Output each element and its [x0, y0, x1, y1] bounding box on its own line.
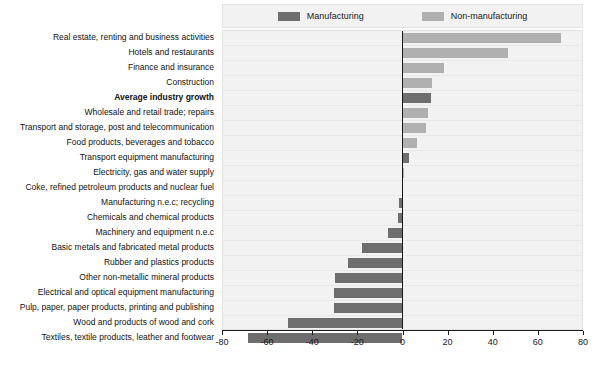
category-label: Electricity, gas and water supply: [0, 165, 218, 180]
plot-area: [222, 30, 583, 330]
x-axis-tick: [267, 331, 268, 335]
bar[interactable]: [335, 273, 402, 283]
category-label: Chemicals and chemical products: [0, 210, 218, 225]
x-axis-tick-label: -80: [215, 337, 228, 347]
bar[interactable]: [403, 33, 562, 43]
category-label: Hotels and restaurants: [0, 45, 218, 60]
bar[interactable]: [403, 48, 508, 58]
legend-label-non-manufacturing: Non-manufacturing: [451, 12, 528, 21]
chart-legend: Manufacturing Non-manufacturing: [222, 4, 583, 28]
legend-swatch-manufacturing: [278, 12, 300, 21]
category-axis-labels: Real estate, renting and business activi…: [0, 30, 218, 330]
bar[interactable]: [403, 78, 432, 88]
bar[interactable]: [348, 258, 403, 268]
x-axis-tick: [583, 331, 584, 335]
x-axis-tick: [312, 331, 313, 335]
category-label: Pulp, paper, paper products, printing an…: [0, 300, 218, 315]
bar[interactable]: [403, 63, 445, 73]
x-axis-tick-label: -20: [351, 337, 364, 347]
category-label: Machinery and equipment n.e.c: [0, 225, 218, 240]
category-label: Finance and insurance: [0, 60, 218, 75]
legend-label-manufacturing: Manufacturing: [307, 12, 364, 21]
category-label: Transport and storage, post and telecomm…: [0, 120, 218, 135]
bar-chart: Manufacturing Non-manufacturing Real est…: [0, 0, 600, 370]
x-axis-tick-labels: -80-60-40-20020406080: [222, 337, 583, 351]
x-axis-tick-label: 60: [533, 337, 543, 347]
bar[interactable]: [288, 318, 402, 328]
x-axis-tick-label: -40: [306, 337, 319, 347]
category-label: Electrical and optical equipment manufac…: [0, 285, 218, 300]
category-label: Food products, beverages and tobacco: [0, 135, 218, 150]
category-label: Transport equipment manufacturing: [0, 150, 218, 165]
category-label: Average industry growth: [0, 90, 218, 105]
category-label: Textiles, textile products, leather and …: [0, 330, 218, 345]
bar[interactable]: [403, 108, 429, 118]
bar[interactable]: [334, 288, 402, 298]
legend-item-manufacturing[interactable]: Manufacturing: [278, 12, 364, 21]
bar[interactable]: [403, 93, 431, 103]
legend-swatch-non-manufacturing: [422, 12, 444, 21]
x-axis-tick-label: -60: [261, 337, 274, 347]
x-axis-tick: [448, 331, 449, 335]
category-label: Wood and products of wood and cork: [0, 315, 218, 330]
category-label: Real estate, renting and business activi…: [0, 30, 218, 45]
category-label: Wholesale and retail trade; repairs: [0, 105, 218, 120]
zero-axis-line: [402, 31, 404, 329]
category-label: Basic metals and fabricated metal produc…: [0, 240, 218, 255]
category-label: Construction: [0, 75, 218, 90]
x-axis-tick: [403, 331, 404, 335]
x-axis-tick: [222, 331, 223, 335]
bar[interactable]: [388, 228, 403, 238]
bar[interactable]: [403, 138, 418, 148]
x-axis-tick-label: 80: [578, 337, 588, 347]
category-label: Rubber and plastics products: [0, 255, 218, 270]
x-axis-tick-label: 0: [400, 337, 405, 347]
bar[interactable]: [362, 243, 402, 253]
x-axis-tick-label: 40: [488, 337, 498, 347]
bar[interactable]: [334, 303, 402, 313]
bar[interactable]: [403, 153, 410, 163]
category-label: Other non-metallic mineral products: [0, 270, 218, 285]
x-axis-line: [222, 330, 583, 336]
category-label: Manufacturing n.e.c; recycling: [0, 195, 218, 210]
legend-item-non-manufacturing[interactable]: Non-manufacturing: [422, 12, 528, 21]
bar[interactable]: [403, 123, 427, 133]
x-axis-tick: [493, 331, 494, 335]
x-axis-tick: [357, 331, 358, 335]
x-axis-tick-label: 20: [443, 337, 453, 347]
x-axis-tick: [538, 331, 539, 335]
category-label: Coke, refined petroleum products and nuc…: [0, 180, 218, 195]
